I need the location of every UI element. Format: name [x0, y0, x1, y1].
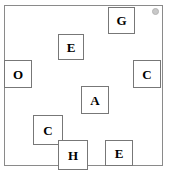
box-label: C: [142, 68, 151, 81]
box-label: O: [13, 68, 23, 81]
labeled-box-o[interactable]: O: [4, 60, 32, 88]
labeled-box-h[interactable]: H: [58, 140, 88, 170]
labeled-box-e-bottom[interactable]: E: [105, 140, 133, 166]
corner-dot-marker: [152, 8, 159, 15]
box-label: C: [43, 124, 52, 137]
labeled-box-a[interactable]: A: [81, 86, 109, 114]
box-label: H: [68, 149, 78, 162]
diagram-canvas: G E O C A C H E: [0, 0, 173, 173]
box-label: E: [67, 41, 76, 54]
box-label: E: [115, 147, 124, 160]
labeled-box-e-top[interactable]: E: [58, 34, 84, 60]
box-label: G: [116, 14, 126, 27]
labeled-box-g[interactable]: G: [108, 7, 135, 34]
labeled-box-c-right[interactable]: C: [133, 60, 161, 88]
box-label: A: [90, 94, 99, 107]
